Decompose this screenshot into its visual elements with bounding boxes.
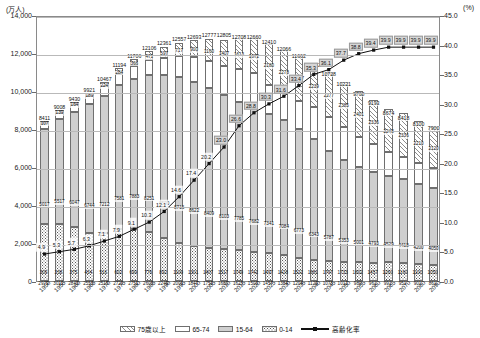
aging-rate-marker[interactable]	[417, 46, 420, 49]
bar-value-65-74: 434	[85, 270, 93, 275]
bar-value-65-74: 375	[70, 270, 78, 275]
aging-rate-marker[interactable]	[402, 46, 405, 49]
aging-rate-label: 10.3	[139, 211, 153, 220]
legend-item-line[interactable]: 高齢化率	[301, 324, 360, 334]
right-axis-tickmark	[440, 46, 444, 47]
aging-rate-label: 31.6	[274, 85, 288, 94]
left-axis-tick-label: 12,000	[2, 50, 32, 57]
bar-value-0-14: 3012	[53, 281, 63, 286]
legend-item-s014[interactable]: 0-14	[262, 326, 293, 333]
bar-value-0-14: 861	[429, 281, 437, 286]
aging-rate-marker[interactable]	[327, 68, 330, 71]
bar-value-0-14: 1129	[308, 281, 318, 286]
aging-rate-marker[interactable]	[297, 84, 300, 87]
legend-swatch-s75	[120, 326, 135, 332]
aging-rate-marker[interactable]	[163, 210, 166, 213]
bar-value-65-74: 1733	[338, 270, 348, 275]
bar-value-65-74: 1742	[248, 270, 258, 275]
aging-rate-label: 5.7	[66, 238, 77, 247]
bar-value-65-74: 1497	[263, 270, 273, 275]
bar-value-65-74: 1428	[278, 270, 288, 275]
aging-rate-line	[44, 47, 433, 254]
left-axis-tickmark	[32, 168, 36, 169]
left-axis-tick-label: 0	[2, 278, 32, 285]
right-axis-tick-label: 10.0	[444, 219, 478, 226]
right-axis-tick-label: 15.0	[444, 189, 478, 196]
bar-value-0-14: 989	[354, 281, 362, 286]
aging-rate-line-layer	[37, 17, 441, 283]
left-axis-tickmark	[32, 130, 36, 131]
bar-value-65-74: 1749	[233, 270, 243, 275]
left-axis-tick-label: 2,000	[2, 240, 32, 247]
aging-rate-marker[interactable]	[282, 95, 285, 98]
bar-value-65-74: 1407	[203, 270, 213, 275]
legend-label: 15-64	[236, 326, 253, 333]
legend-item-s75[interactable]: 75歳以上	[120, 324, 166, 334]
bar-value-0-14: 1457	[263, 281, 273, 286]
aging-rate-marker[interactable]	[222, 145, 225, 148]
bar-value-65-74: 699	[129, 270, 137, 275]
aging-rate-marker[interactable]	[43, 252, 46, 255]
right-axis-tickmark	[440, 134, 444, 135]
aging-rate-label: 37.7	[334, 49, 348, 58]
aging-rate-marker[interactable]	[387, 46, 390, 49]
bar-value-65-74: 338	[55, 270, 63, 275]
left-axis-tickmark	[32, 244, 36, 245]
aging-rate-marker[interactable]	[118, 235, 121, 238]
bar-value-65-74: 776	[144, 270, 152, 275]
left-axis-tickmark	[32, 92, 36, 93]
aging-rate-label: 5.3	[51, 240, 62, 249]
aging-rate-label: 23.0	[214, 136, 228, 145]
legend-label: 高齢化率	[332, 324, 360, 334]
legend-item-s6574[interactable]: 65-74	[175, 326, 209, 333]
legend-swatch-s6574	[175, 326, 190, 332]
bar-value-65-74: 1797	[323, 270, 333, 275]
aging-rate-marker[interactable]	[342, 59, 345, 62]
aging-rate-marker[interactable]	[148, 221, 151, 224]
bar-value-0-14: 2979	[38, 281, 48, 286]
bar-value-0-14: 901	[414, 281, 422, 286]
aging-rate-label: 14.6	[169, 185, 183, 194]
aging-rate-label: 4.9	[36, 243, 47, 252]
aging-rate-label: 7.9	[111, 225, 122, 234]
right-axis-tick-label: 25.0	[444, 130, 478, 137]
aging-rate-marker[interactable]	[432, 46, 435, 49]
aging-rate-marker[interactable]	[58, 250, 61, 253]
chart-legend: 75歳以上65-7415-640-14高齢化率	[0, 324, 480, 334]
aging-rate-label: 36.1	[319, 58, 333, 67]
left-axis-tick-label: 6,000	[2, 164, 32, 171]
aging-rate-marker[interactable]	[178, 195, 181, 198]
legend-item-s1564[interactable]: 15-64	[218, 326, 252, 333]
bar-value-0-14: 951	[399, 281, 407, 286]
aging-rate-marker[interactable]	[207, 162, 210, 165]
aging-rate-label: 28.8	[244, 101, 258, 110]
aging-rate-marker[interactable]	[267, 102, 270, 105]
aging-rate-marker[interactable]	[193, 179, 196, 182]
bar-value-65-74: 1457	[368, 270, 378, 275]
bar-value-0-14: 1623	[233, 281, 243, 286]
bar-value-0-14: 1012	[338, 281, 348, 286]
legend-swatch-s1564	[218, 326, 233, 332]
left-axis-tick-label: 14,000	[2, 12, 32, 19]
aging-rate-marker[interactable]	[73, 248, 76, 251]
gridline	[37, 207, 439, 208]
aging-rate-label: 26.6	[229, 114, 243, 123]
aging-rate-marker[interactable]	[103, 239, 106, 242]
aging-rate-marker[interactable]	[133, 228, 136, 231]
aging-rate-marker[interactable]	[372, 49, 375, 52]
aging-rate-marker[interactable]	[237, 124, 240, 127]
right-axis-tickmark	[440, 164, 444, 165]
aging-rate-label: 33.4	[289, 74, 303, 83]
bar-value-65-74: 516	[99, 270, 107, 275]
left-axis-tickmark	[32, 282, 36, 283]
bar-value-0-14: 1073	[323, 281, 333, 286]
right-axis-tick-label: 35.0	[444, 71, 478, 78]
right-axis-tickmark	[440, 16, 444, 17]
aging-rate-marker[interactable]	[252, 111, 255, 114]
aging-rate-label: 38.8	[349, 42, 363, 51]
right-axis-tickmark	[440, 252, 444, 253]
bar-value-0-14: 1204	[293, 281, 303, 286]
bar-value-65-74: 1522	[293, 270, 303, 275]
aging-rate-marker[interactable]	[312, 73, 315, 76]
legend-label: 0-14	[279, 326, 292, 333]
